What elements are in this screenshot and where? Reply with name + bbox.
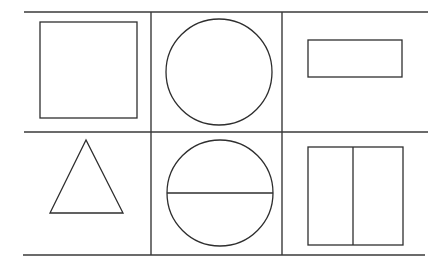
shapes-diagram: Geometric shapes grid — [0, 0, 445, 267]
